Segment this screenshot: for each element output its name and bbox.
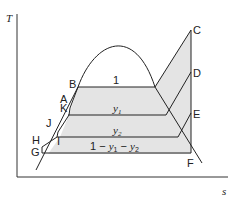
point-label-J: J xyxy=(46,117,52,129)
point-label-I: I xyxy=(57,135,60,147)
x-axis-label: s xyxy=(222,185,226,197)
point-label-E: E xyxy=(193,108,200,120)
ts-diagram: T s B A K J I H G C D E F 1 y1 y2 1 − y1… xyxy=(0,0,237,200)
point-label-C: C xyxy=(193,24,201,36)
point-label-B: B xyxy=(69,78,76,90)
point-label-D: D xyxy=(193,67,201,79)
y-axis-label: T xyxy=(6,12,13,24)
point-label-F: F xyxy=(187,157,194,169)
point-label-K: K xyxy=(60,102,68,114)
region-label-1: 1 xyxy=(113,74,119,86)
point-label-G: G xyxy=(31,146,40,158)
point-label-H: H xyxy=(32,134,40,146)
